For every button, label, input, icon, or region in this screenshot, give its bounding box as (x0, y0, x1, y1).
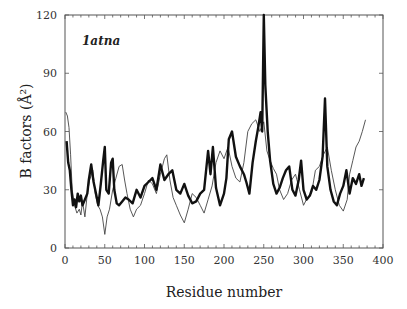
y-tick-labels: 0306090120 (36, 9, 57, 255)
x-tick-label: 150 (174, 254, 195, 267)
panel-label: 1atna (82, 34, 120, 48)
y-tick-label: 120 (36, 9, 57, 22)
x-tick-label: 100 (134, 254, 155, 267)
bfactor-chart: 0306090120 050100150200250300350400 1atn… (0, 0, 407, 309)
x-tick-label: 400 (373, 254, 394, 267)
x-tick-label: 50 (98, 254, 112, 267)
x-tick-label: 0 (62, 254, 69, 267)
x-tick-label: 250 (253, 254, 274, 267)
x-tick-label: 300 (293, 254, 314, 267)
plot-frame (65, 15, 383, 248)
x-axis-title: Residue number (166, 284, 283, 300)
x-tick-label: 200 (214, 254, 235, 267)
y-tick-label: 60 (43, 126, 57, 139)
axis-ticks (65, 15, 383, 248)
y-tick-label: 30 (43, 184, 57, 197)
x-tick-labels: 050100150200250300350400 (62, 254, 394, 267)
y-tick-label: 0 (50, 242, 57, 255)
y-axis-title: B factors (Å²) (17, 83, 34, 178)
y-tick-label: 90 (43, 67, 57, 80)
x-tick-label: 350 (333, 254, 354, 267)
